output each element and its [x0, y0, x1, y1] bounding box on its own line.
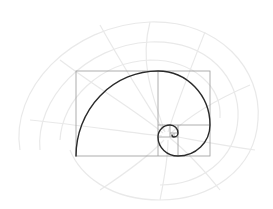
- golden-spiral-diagram: [0, 0, 273, 209]
- nautilus-shell-background: [19, 22, 258, 200]
- fibonacci-grid: [76, 71, 210, 156]
- golden-spiral: [76, 71, 210, 156]
- outer-rectangle: [76, 71, 210, 156]
